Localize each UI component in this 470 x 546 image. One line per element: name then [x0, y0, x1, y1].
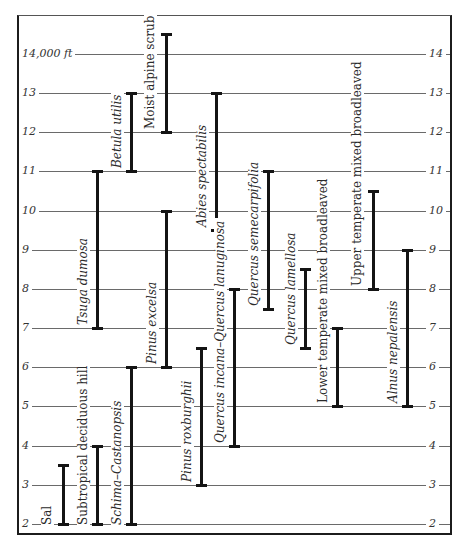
y-tick-label-left: 6: [19, 361, 32, 373]
range-bar-cap: [402, 249, 413, 252]
range-bar: [372, 191, 375, 289]
range-bar-cap: [402, 405, 413, 408]
range-bar: [304, 269, 307, 347]
range-bar-cap: [211, 92, 222, 95]
series-label: Schima–Castanopsis: [111, 398, 124, 528]
range-bar-cap: [92, 445, 103, 448]
gridline: [19, 171, 450, 172]
range-bar: [215, 93, 218, 230]
range-bar-cap: [368, 288, 379, 291]
range-bar-cap: [161, 366, 172, 369]
range-bar-cap: [229, 288, 240, 291]
y-tick-label-left: 5: [19, 400, 32, 412]
y-tick-label-left: 13: [19, 87, 39, 99]
y-tick-label-left: 2: [19, 518, 32, 530]
series-label: Pinus excelsa: [146, 279, 159, 367]
series-label: Betula utilis: [111, 92, 124, 172]
range-bar-cap: [263, 170, 274, 173]
range-bar: [96, 171, 99, 328]
y-tick-label-left: 3: [19, 479, 32, 491]
range-bar-cap: [58, 523, 69, 526]
gridline: [19, 211, 450, 212]
gridline: [19, 54, 450, 55]
series-label: Quercus semecarpifolia: [248, 158, 261, 308]
range-bar: [130, 93, 133, 171]
y-tick-label-right: 10: [426, 205, 446, 217]
altitude-range-chart: 2233445566778899101011111212131314,000 f…: [0, 0, 470, 546]
gridline: [19, 93, 450, 94]
y-tick-label-left: 8: [19, 283, 32, 295]
y-tick-label-left: 12: [19, 126, 39, 138]
range-bar: [130, 367, 133, 524]
series-label: Alnus nepalensis: [387, 298, 400, 406]
range-bar: [267, 171, 270, 308]
y-tick-label-left: 14,000 ft: [19, 48, 75, 60]
range-bar: [96, 446, 99, 524]
range-bar-cap: [161, 33, 172, 36]
range-bar: [62, 465, 65, 524]
range-bar-cap: [58, 464, 69, 467]
range-bar: [200, 348, 203, 485]
range-bar-cap: [126, 366, 137, 369]
range-bar-cap: [126, 170, 137, 173]
y-tick-label-left: 9: [19, 244, 32, 256]
series-label: Lower temperate mixed broadleaved: [317, 176, 330, 407]
range-bar-cap: [161, 210, 172, 213]
y-tick-label-right: 3: [426, 479, 439, 491]
series-label: Quercus lamellosa: [285, 229, 298, 348]
y-tick-label-right: 8: [426, 283, 439, 295]
series-label: Pinus roxburghii: [181, 378, 194, 485]
range-bar-cap: [196, 484, 207, 487]
y-tick-label-left: 7: [19, 322, 32, 334]
y-tick-label-right: 13: [426, 87, 446, 99]
y-tick-label-right: 7: [426, 322, 439, 334]
series-label: Abies spectabilis: [196, 122, 209, 230]
y-tick-label-right: 9: [426, 244, 439, 256]
range-bar-cap: [92, 170, 103, 173]
y-tick-label-right: 4: [426, 440, 439, 452]
y-tick-label-right: 5: [426, 400, 439, 412]
series-label: Subtropical deciduous hill: [77, 363, 90, 528]
range-bar: [165, 211, 168, 368]
range-bar-cap: [161, 131, 172, 134]
y-tick-label-right: 11: [426, 165, 446, 177]
y-tick-label-right: 14: [426, 48, 446, 60]
y-tick-label-left: 10: [19, 205, 39, 217]
y-tick-label-left: 4: [19, 440, 32, 452]
series-label: Tsuga dumosa: [77, 235, 90, 328]
y-tick-label-left: 11: [19, 165, 39, 177]
range-bar-cap: [332, 405, 343, 408]
range-bar-cap: [300, 347, 311, 350]
range-bar-cap: [196, 347, 207, 350]
range-bar-cap: [126, 523, 137, 526]
range-bar-cap: [229, 445, 240, 448]
range-bar: [233, 289, 236, 446]
series-label: Moist alpine scrub: [144, 13, 157, 132]
gridline: [19, 132, 450, 133]
y-tick-label-right: 12: [426, 126, 446, 138]
y-tick-label-right: 2: [426, 518, 439, 530]
y-tick-label-right: 6: [426, 361, 439, 373]
range-bar-cap: [126, 92, 137, 95]
series-label: Sal: [41, 503, 54, 528]
series-label: Quercus incana–Quercus lanuginosa: [214, 217, 227, 445]
range-bar: [165, 34, 168, 132]
range-bar: [336, 328, 339, 406]
range-bar-cap: [332, 327, 343, 330]
range-bar: [406, 250, 409, 407]
range-bar-cap: [368, 190, 379, 193]
range-bar-cap: [263, 308, 274, 311]
range-bar-cap: [300, 268, 311, 271]
range-bar-cap: [92, 523, 103, 526]
range-bar-cap: [92, 327, 103, 330]
series-label: Upper temperate mixed broadleaved: [351, 58, 364, 289]
